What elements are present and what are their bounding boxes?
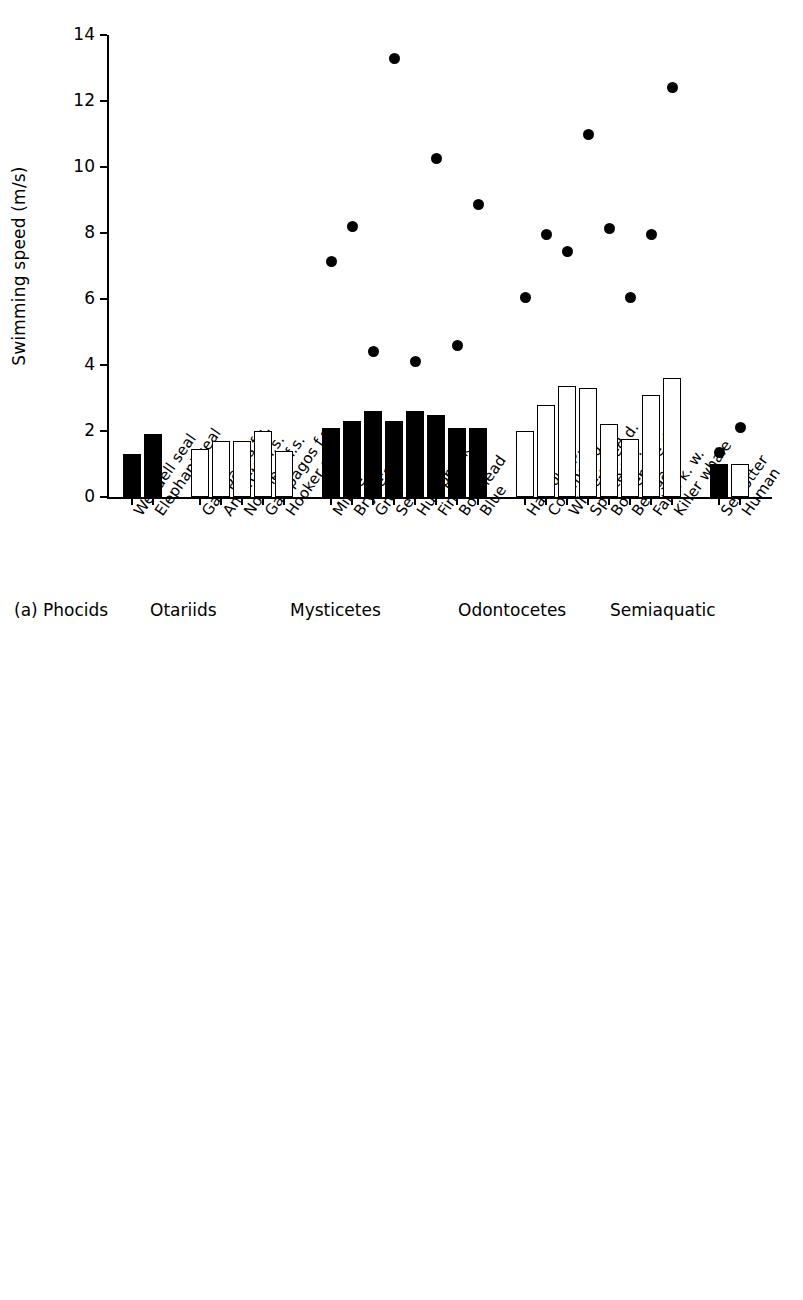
bar xyxy=(385,421,403,497)
bar xyxy=(469,428,487,497)
data-point-dot xyxy=(368,346,379,357)
group-label-semiaquatic: Semiaquatic xyxy=(610,600,716,620)
group-label-mysticetes: Mysticetes xyxy=(290,600,381,620)
y-tick-label: 10 xyxy=(45,156,95,176)
bar xyxy=(254,431,272,497)
bar xyxy=(364,411,382,497)
y-tick-mark xyxy=(100,34,107,36)
data-point-dot xyxy=(667,82,678,93)
y-tick-mark xyxy=(100,232,107,234)
data-point-dot xyxy=(389,53,400,64)
y-tick-label: 8 xyxy=(45,222,95,242)
y-tick-mark xyxy=(100,496,107,498)
y-axis-title: Swimming speed (m/s) xyxy=(9,166,29,365)
data-point-dot xyxy=(347,221,358,232)
bar xyxy=(212,441,230,497)
y-tick-mark xyxy=(100,100,107,102)
bar xyxy=(558,386,576,497)
bar xyxy=(579,388,597,497)
bar xyxy=(322,428,340,497)
bar xyxy=(642,395,660,497)
data-point-dot xyxy=(452,340,463,351)
bar xyxy=(731,464,749,497)
data-point-dot xyxy=(520,292,531,303)
data-point-dot xyxy=(541,229,552,240)
y-tick-mark xyxy=(100,430,107,432)
bar xyxy=(663,378,681,497)
y-tick-mark xyxy=(100,166,107,168)
bar xyxy=(275,451,293,497)
bar xyxy=(448,428,466,497)
bar xyxy=(621,439,639,497)
data-point-dot xyxy=(473,199,484,210)
data-point-dot xyxy=(646,229,657,240)
data-point-dot xyxy=(326,256,337,267)
y-tick-label: 12 xyxy=(45,90,95,110)
data-point-dot xyxy=(604,223,615,234)
bar xyxy=(123,454,141,497)
y-tick-label: 2 xyxy=(45,420,95,440)
y-tick-mark xyxy=(100,364,107,366)
data-point-dot xyxy=(735,422,746,433)
bar xyxy=(600,424,618,497)
data-point-dot xyxy=(714,447,725,458)
bar xyxy=(427,415,445,498)
data-point-dot xyxy=(625,292,636,303)
y-axis-line xyxy=(107,35,109,497)
group-label-otariids: Otariids xyxy=(150,600,217,620)
data-point-dot xyxy=(562,246,573,257)
panel-b-maximum-dive: 0102030405060708090Maximum dive (min)Wed… xyxy=(0,650,803,1300)
group-label-phocids: Phocids xyxy=(43,600,108,620)
bar xyxy=(191,449,209,497)
panel-tag: (a) xyxy=(14,600,38,620)
bar xyxy=(406,411,424,497)
bar xyxy=(144,434,162,497)
data-point-dot xyxy=(583,129,594,140)
bar xyxy=(343,421,361,497)
y-tick-label: 4 xyxy=(45,354,95,374)
y-tick-mark xyxy=(100,298,107,300)
bar xyxy=(233,441,251,497)
bar xyxy=(710,464,728,497)
group-label-odontocetes: Odontocetes xyxy=(458,600,566,620)
y-tick-label: 6 xyxy=(45,288,95,308)
panel-a-swimming-speed: 02468101214Swimming speed (m/s)Weddell s… xyxy=(0,0,803,650)
bar xyxy=(516,431,534,497)
y-tick-label: 0 xyxy=(45,486,95,506)
data-point-dot xyxy=(431,153,442,164)
data-point-dot xyxy=(410,356,421,367)
y-tick-label: 14 xyxy=(45,24,95,44)
bar xyxy=(537,405,555,497)
